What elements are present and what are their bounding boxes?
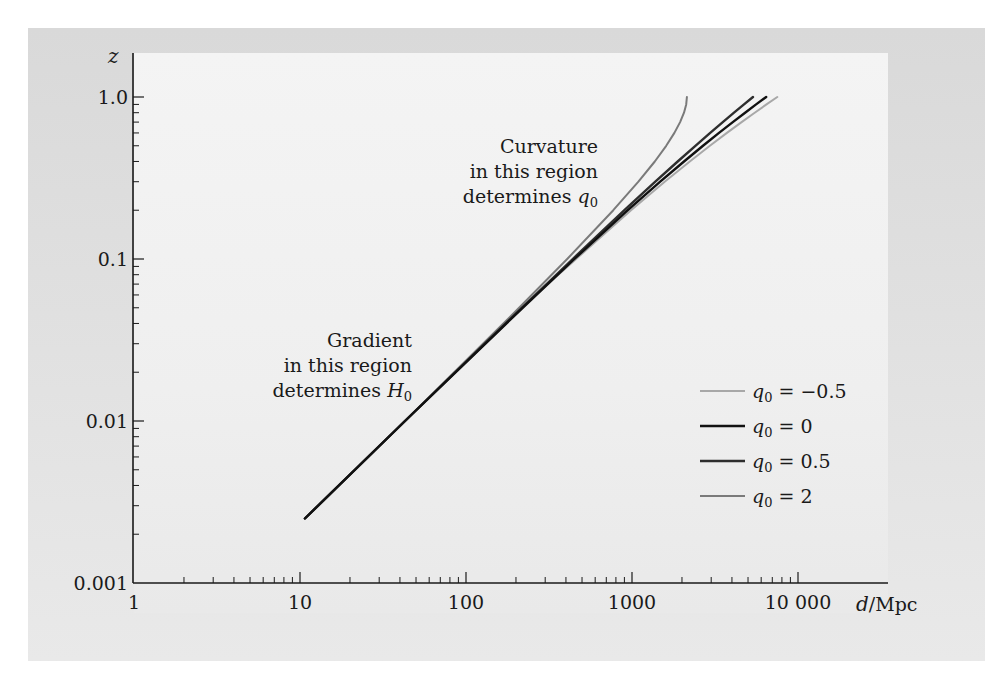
legend-label: q0 = 2 xyxy=(752,485,813,510)
annotation-gradient-line3: determines H0 xyxy=(272,379,412,404)
legend-label: q0 = 0 xyxy=(752,415,813,440)
annotation-curvature-line1: Curvature xyxy=(500,135,598,157)
annotation-gradient: Gradient in this region determines H0 xyxy=(272,329,412,404)
annotation-gradient-line2: in this region xyxy=(284,354,412,376)
axes: 110100100010 0000.0010.010.11.0 xyxy=(74,53,888,613)
y-tick-label: 1.0 xyxy=(98,86,128,108)
y-tick-label: 0.1 xyxy=(98,248,128,270)
y-axis-label: z xyxy=(107,44,119,68)
legend-item: q0 = 0.5 xyxy=(700,450,831,475)
legend-label: q0 = −0.5 xyxy=(752,380,847,405)
x-axis-unit: /Mpc xyxy=(869,593,918,615)
x-tick-label: 10 xyxy=(288,591,312,613)
x-axis-variable: d xyxy=(856,592,869,616)
legend-label: q0 = 0.5 xyxy=(752,450,831,475)
redshift-distance-chart: 110100100010 0000.0010.010.11.0 z d/Mpc … xyxy=(0,0,1004,679)
legend-item: q0 = −0.5 xyxy=(700,380,847,405)
y-tick-label: 0.01 xyxy=(86,410,128,432)
legend-item: q0 = 0 xyxy=(700,415,813,440)
legend-item: q0 = 2 xyxy=(700,485,813,510)
annotation-gradient-line1: Gradient xyxy=(327,329,412,351)
annotation-curvature: Curvature in this region determines q0 xyxy=(463,135,598,210)
x-tick-label: 100 xyxy=(448,591,484,613)
y-tick-label: 0.001 xyxy=(74,572,128,594)
x-axis-label: d/Mpc xyxy=(856,592,917,616)
x-tick-label: 10 000 xyxy=(765,591,831,613)
annotation-curvature-line2: in this region xyxy=(470,160,598,182)
legend: q0 = −0.5q0 = 0q0 = 0.5q0 = 2 xyxy=(700,380,847,510)
annotation-curvature-line3: determines q0 xyxy=(463,185,598,210)
x-tick-label: 1000 xyxy=(608,591,656,613)
x-tick-label: 1 xyxy=(128,591,140,613)
